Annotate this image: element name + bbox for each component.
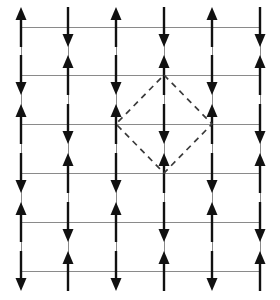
spin-head-down-r1-c2: [111, 82, 122, 95]
spin-head-up-r4-c0: [16, 202, 27, 215]
spin-head-up-r5-c3: [159, 251, 170, 264]
spin-head-up-r3-c1: [63, 153, 74, 166]
spin-head-down-r5-c2: [111, 278, 122, 291]
spin-head-up-r3-c5: [255, 153, 266, 166]
spin-head-down-r0-c1: [63, 34, 74, 47]
spin-head-down-r5-c0: [16, 278, 27, 291]
spin-head-down-r2-c1: [63, 131, 74, 144]
spin-head-down-r0-c5: [255, 34, 266, 47]
spin-head-down-r2-c5: [255, 131, 266, 144]
spin-head-up-r0-c4: [207, 7, 218, 20]
spin-head-up-r0-c0: [16, 7, 27, 20]
spin-lattice-figure: [0, 0, 280, 300]
spin-head-down-r3-c2: [111, 180, 122, 193]
spin-head-up-r1-c3: [159, 55, 170, 68]
spin-head-up-r3-c3: [159, 153, 170, 166]
spin-head-down-r1-c0: [16, 82, 27, 95]
spin-head-up-r4-c4: [207, 202, 218, 215]
spin-head-down-r4-c3: [159, 229, 170, 242]
spin-head-up-r2-c0: [16, 104, 27, 117]
spin-head-down-r2-c3: [159, 131, 170, 144]
spin-head-up-r1-c5: [255, 55, 266, 68]
spin-head-up-r4-c2: [111, 202, 122, 215]
spin-head-up-r2-c2: [111, 104, 122, 117]
spin-head-down-r3-c0: [16, 180, 27, 193]
spin-head-up-r0-c2: [111, 7, 122, 20]
spin-head-up-r1-c1: [63, 55, 74, 68]
spin-head-down-r1-c4: [207, 82, 218, 95]
spin-head-down-r3-c4: [207, 180, 218, 193]
spin-head-up-r5-c1: [63, 251, 74, 264]
spin-head-down-r5-c4: [207, 278, 218, 291]
lattice-canvas: [0, 0, 280, 300]
spin-head-up-r5-c5: [255, 251, 266, 264]
spin-head-up-r2-c4: [207, 104, 218, 117]
spin-head-down-r4-c1: [63, 229, 74, 242]
spin-head-down-r4-c5: [255, 229, 266, 242]
spin-head-down-r0-c3: [159, 34, 170, 47]
